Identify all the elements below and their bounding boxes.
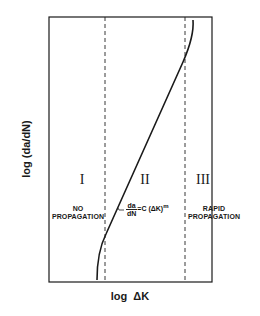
region-III-numeral: III — [188, 172, 218, 188]
region-I-label-line2: PROPAGATION — [52, 213, 104, 220]
region-III-label-line1: RAPID — [203, 205, 225, 212]
crack-growth-curve — [97, 20, 193, 280]
region-I-numeral: I — [72, 172, 92, 188]
equation-exponent: m — [163, 203, 168, 209]
diagram-canvas — [0, 0, 260, 316]
paris-law-equation: da dN =C (ΔK)m — [126, 202, 169, 217]
region-I-label: NO PROPAGATION — [50, 205, 106, 221]
equation-numerator: da — [126, 202, 137, 210]
region-III-label-line2: PROPAGATION — [188, 213, 240, 220]
region-I-label-line1: NO — [73, 205, 84, 212]
equation-leader-arrow — [118, 208, 124, 210]
equation-denominator: dN — [126, 210, 137, 217]
y-axis-label: log (da/dN) — [20, 99, 32, 199]
equation-rhs: =C (ΔK) — [137, 205, 163, 212]
x-axis-label: log ΔK — [100, 290, 160, 302]
equation-fraction: da dN — [126, 202, 137, 217]
plot-frame — [49, 17, 212, 282]
region-III-label: RAPID PROPAGATION — [184, 205, 244, 221]
region-II-numeral: II — [133, 172, 157, 188]
